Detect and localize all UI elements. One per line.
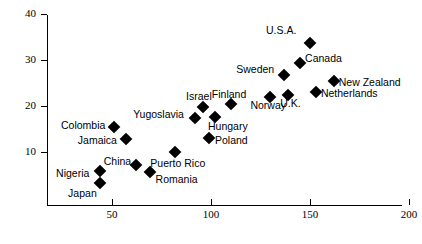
data-point-marker [169, 145, 182, 158]
data-point-label: Colombia [61, 120, 105, 131]
x-tick-label-200: 200 [389, 209, 422, 220]
x-tick-50 [112, 199, 113, 205]
data-point-label: Finland [212, 89, 246, 100]
data-point-marker [278, 69, 291, 82]
data-point-label: Israel [186, 91, 212, 102]
data-point-label: U.S.A. [266, 25, 296, 36]
data-point-marker [197, 101, 210, 114]
y-tick-label-40: 40 [12, 8, 36, 19]
data-point-marker [304, 37, 317, 50]
x-tick-150 [310, 199, 311, 205]
x-tick-label-150: 150 [290, 209, 330, 220]
data-point-label: Japan [68, 188, 97, 199]
y-tick-10 [41, 152, 47, 153]
x-tick-label-100: 100 [191, 209, 231, 220]
data-point-marker [129, 159, 142, 172]
x-tick-200 [409, 199, 410, 205]
y-tick-label-20: 20 [12, 100, 36, 111]
data-point-label: Jamaica [78, 135, 117, 146]
data-point-marker [108, 120, 121, 133]
x-axis-line [47, 205, 402, 206]
data-point-label: Romania [156, 174, 198, 185]
x-tick-100 [211, 199, 212, 205]
data-point-marker [119, 132, 132, 145]
y-axis-line [47, 15, 48, 205]
data-point-label: Canada [305, 53, 342, 64]
data-point-label: Hungary [208, 121, 248, 132]
data-point-marker [203, 131, 216, 144]
data-point-label: Poland [215, 135, 248, 146]
y-tick-20 [41, 106, 47, 107]
y-tick-40 [41, 14, 47, 15]
x-tick-label-50: 50 [92, 209, 132, 220]
data-point-label: Netherlands [321, 88, 378, 99]
y-tick-label-10: 10 [12, 146, 36, 157]
data-point-label: China [104, 156, 131, 167]
y-tick-label-30: 30 [12, 54, 36, 65]
y-tick-30 [41, 60, 47, 61]
data-point-marker [189, 112, 202, 125]
data-point-label: Puerto Rico [150, 158, 205, 169]
data-point-label: Norway [250, 100, 286, 111]
data-point-label: Sweden [236, 64, 274, 75]
data-point-label: Nigeria [56, 168, 89, 179]
data-point-label: Yugoslavia [133, 109, 184, 120]
